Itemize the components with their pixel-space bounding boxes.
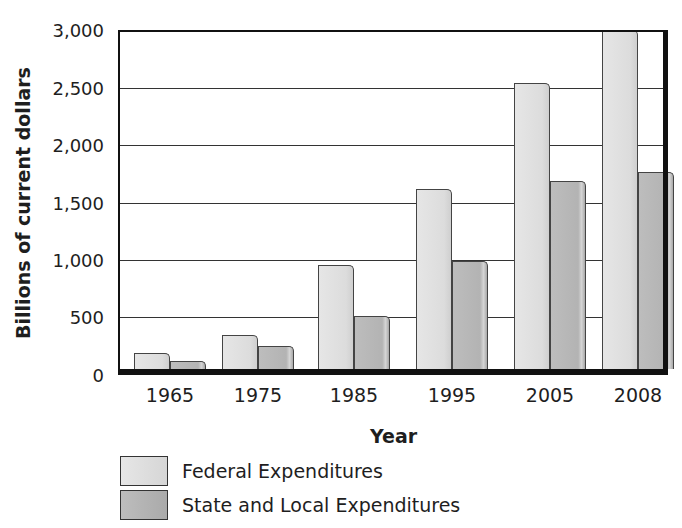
x-tick: 1965 — [146, 384, 194, 406]
x-axis-ticks: 196519751985199520052008 — [118, 384, 668, 414]
y-axis-ticks: 0 500 1,000 1,500 2,000 2,500 3,000 — [0, 30, 112, 375]
x-axis-label: Year — [370, 425, 417, 447]
x-tick: 1975 — [234, 384, 282, 406]
y-tick: 1,500 — [34, 192, 104, 213]
y-tick: 1,000 — [34, 250, 104, 271]
y-tick: 3,000 — [34, 20, 104, 41]
plot-area — [118, 30, 668, 375]
y-tick: 2,500 — [34, 77, 104, 98]
legend-label: State and Local Expenditures — [182, 494, 460, 516]
legend: Federal Expenditures State and Local Exp… — [120, 454, 460, 522]
x-tick: 1995 — [428, 384, 476, 406]
legend-item-federal: Federal Expenditures — [120, 454, 460, 488]
plot-frame — [118, 30, 668, 375]
y-tick: 2,000 — [34, 134, 104, 155]
legend-label: Federal Expenditures — [182, 460, 383, 482]
legend-swatch-federal — [120, 456, 168, 486]
x-tick: 1985 — [330, 384, 378, 406]
y-tick: 500 — [34, 307, 104, 328]
y-tick: 0 — [34, 365, 104, 386]
x-tick: 2005 — [526, 384, 574, 406]
legend-item-state-local: State and Local Expenditures — [120, 488, 460, 522]
legend-swatch-state-local — [120, 490, 168, 520]
x-tick: 2008 — [614, 384, 662, 406]
